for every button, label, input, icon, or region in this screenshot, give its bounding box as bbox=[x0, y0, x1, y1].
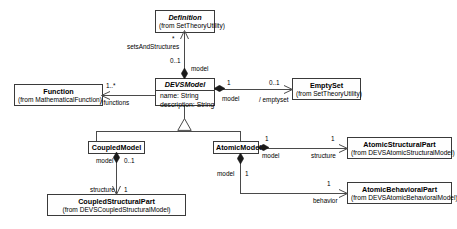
class-header-atomicmodel: AtomicModel bbox=[214, 142, 258, 153]
arrowhead-to-definition bbox=[179, 30, 190, 40]
multiplicity-atomicmodel-behavioral-source: 1 bbox=[245, 170, 249, 178]
class-box-devsmodel[interactable]: DEVSModel name: String description: Stri… bbox=[155, 78, 215, 106]
composition-diamond-atomicmodel-behavioral bbox=[237, 153, 244, 164]
connector-atomicmodel-atomicstructuralpart bbox=[259, 148, 347, 149]
arrowhead-to-function bbox=[101, 90, 111, 101]
connector-atomicmodel-atomicbehavioralpart-h bbox=[240, 193, 347, 194]
multiplicity-atomicbehavioralpart: 1 bbox=[327, 180, 331, 188]
arrowhead-to-emptyset bbox=[283, 84, 293, 95]
composition-diamond-coupledmodel bbox=[113, 152, 120, 163]
class-box-atomicmodel[interactable]: AtomicModel bbox=[213, 141, 259, 154]
class-header-devsmodel: DEVSModel bbox=[156, 79, 214, 90]
class-package-coupledstructuralpart: (from DEVSCoupledStructuralModel) bbox=[51, 206, 182, 215]
multiplicity-devsmodel-emptyset-source: 1 bbox=[227, 79, 231, 87]
class-name-emptyset: EmptySet bbox=[296, 81, 357, 90]
class-header-atomicbehavioralpart: AtomicBehavioralPart (from DEVSAtomicBeh… bbox=[348, 183, 451, 205]
connector-devsmodel-emptyset bbox=[215, 89, 292, 90]
class-box-emptyset[interactable]: EmptySet (from SetTheoryUtility) bbox=[292, 78, 361, 100]
class-package-atomicbehavioralpart: (from DEVSAtomicBehavioralModel) bbox=[351, 194, 448, 203]
class-header-coupledstructuralpart: CoupledStructuralPart (from DEVSCoupledS… bbox=[48, 195, 185, 217]
role-setsandstructures: setsAndStructures bbox=[127, 43, 179, 51]
multiplicity-devsmodel-definition-source: 0..1 bbox=[170, 57, 181, 65]
arrowhead-to-atomicstructuralpart bbox=[338, 143, 348, 154]
class-name-function: Function bbox=[18, 87, 99, 96]
class-box-atomicstructuralpart[interactable]: AtomicStructuralPart (from DEVSAtomicStr… bbox=[347, 137, 452, 159]
arrowhead-to-coupledstructuralpart bbox=[111, 185, 122, 195]
role-emptyset: / emptyset bbox=[259, 96, 288, 104]
composition-diamond-atomicmodel-structural bbox=[258, 144, 269, 151]
role-model-atomic-behavioral: model bbox=[217, 170, 234, 178]
attribute-description: description: String bbox=[160, 101, 211, 110]
class-box-atomicbehavioralpart[interactable]: AtomicBehavioralPart (from DEVSAtomicBeh… bbox=[347, 182, 452, 204]
role-model-atomic-structural: model bbox=[262, 152, 279, 160]
multiplicity-atomicstructuralpart: 1 bbox=[331, 135, 335, 143]
role-model-emptyset: model bbox=[222, 95, 239, 103]
multiplicity-definition-star: * bbox=[172, 35, 175, 43]
class-package-function: (from MathematicalFunction) bbox=[18, 96, 99, 105]
role-structure-atomic: structure bbox=[311, 152, 336, 160]
class-header-function: Function (from MathematicalFunction) bbox=[15, 85, 102, 107]
class-box-function[interactable]: Function (from MathematicalFunction) bbox=[14, 84, 103, 106]
role-behavior-atomic: behavior bbox=[313, 197, 338, 205]
class-name-definition: Definition bbox=[159, 13, 211, 22]
class-box-coupledstructuralpart[interactable]: CoupledStructuralPart (from DEVSCoupledS… bbox=[47, 194, 186, 216]
generalization-triangle bbox=[177, 118, 192, 131]
composition-diamond-devsmodel-emptyset bbox=[214, 85, 225, 92]
class-name-coupledmodel: CoupledModel bbox=[91, 143, 142, 152]
attribute-name: name: String bbox=[160, 92, 211, 101]
role-model-definition: model bbox=[191, 65, 208, 73]
composition-diamond-devsmodel-definition bbox=[181, 68, 188, 79]
multiplicity-function: 1..* bbox=[106, 82, 116, 90]
class-name-atomicmodel: AtomicModel bbox=[216, 143, 256, 152]
multiplicity-emptyset: 0..1 bbox=[269, 79, 280, 87]
class-package-emptyset: (from SetTheoryUtility) bbox=[296, 90, 357, 99]
class-header-atomicstructuralpart: AtomicStructuralPart (from DEVSAtomicStr… bbox=[348, 138, 451, 160]
class-package-atomicstructuralpart: (from DEVSAtomicStructuralModel) bbox=[351, 149, 448, 158]
class-attributes-devsmodel: name: String description: String bbox=[156, 90, 214, 111]
arrowhead-to-atomicbehavioralpart bbox=[338, 188, 348, 199]
class-name-devsmodel: DEVSModel bbox=[159, 80, 211, 89]
class-name-atomicbehavioralpart: AtomicBehavioralPart bbox=[351, 185, 448, 194]
class-header-emptyset: EmptySet (from SetTheoryUtility) bbox=[293, 79, 360, 101]
uml-diagram-canvas: Definition (from SetTheoryUtility) DEVSM… bbox=[0, 0, 457, 229]
class-name-atomicstructuralpart: AtomicStructuralPart bbox=[351, 140, 448, 149]
multiplicity-coupledmodel-source: 0..1 bbox=[124, 157, 135, 165]
role-model-coupled: model bbox=[96, 157, 113, 165]
class-name-coupledstructuralpart: CoupledStructuralPart bbox=[51, 197, 182, 206]
multiplicity-atomicmodel-structural-source: 1 bbox=[265, 135, 269, 143]
multiplicity-coupledstructuralpart: 1 bbox=[124, 186, 128, 194]
connector-generalization-bus bbox=[96, 131, 241, 132]
